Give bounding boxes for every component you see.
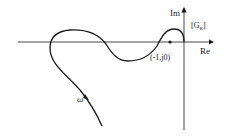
nyquist-curve (50, 29, 184, 126)
imag-axis-label: Im (170, 8, 180, 18)
svg-text:[GK]: [GK] (191, 21, 206, 31)
real-axis-label: Re (200, 46, 210, 56)
critical-point (168, 40, 171, 43)
nyquist-diagram: Im Re (-1,j0) ω [GK] (0, 0, 226, 139)
frequency-label: ω (77, 94, 83, 104)
critical-point-label: (-1,j0) (150, 53, 171, 62)
plane-label: [GK] (191, 21, 206, 31)
